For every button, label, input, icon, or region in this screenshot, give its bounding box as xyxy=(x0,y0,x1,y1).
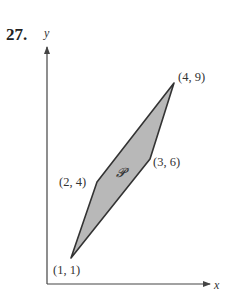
vertex-label-4-9: (4, 9) xyxy=(178,70,205,84)
vertex-label-2-4: (2, 4) xyxy=(59,175,86,189)
vertex-label-1-1: (1, 1) xyxy=(53,263,80,277)
y-axis-label: y xyxy=(43,26,50,40)
figure: 27. y x 𝓟 (4, 9) (3, 6) (2, 4) (1, 1) xyxy=(0,0,234,299)
x-axis-label: x xyxy=(213,278,220,292)
vertex-label-3-6: (3, 6) xyxy=(153,155,180,169)
problem-number: 27. xyxy=(6,25,27,44)
